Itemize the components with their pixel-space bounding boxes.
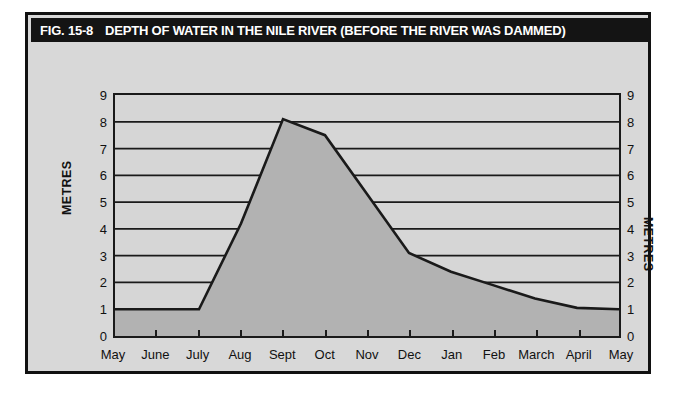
y-axis-tick-label: 2	[627, 275, 649, 290]
y-axis-tick-label: 5	[85, 195, 107, 210]
x-axis-tick-mark	[579, 330, 581, 338]
y-axis-tick-label: 4	[85, 221, 107, 236]
area-fill-path	[115, 119, 619, 336]
y-axis-ticks-left: 0123456789	[85, 93, 107, 338]
x-axis-tick-labels: MayJuneJulyAugSeptOctNovDecJanFebMarchAp…	[113, 347, 621, 367]
figure-title-label: DEPTH OF WATER IN THE NILE RIVER (BEFORE…	[105, 23, 565, 38]
x-axis-tick-mark	[494, 330, 496, 338]
y-axis-tick-label: 7	[627, 141, 649, 156]
area-chart-svg	[115, 95, 619, 336]
y-axis-tick-label: 0	[627, 329, 649, 344]
y-axis-tick-label: 8	[85, 114, 107, 129]
y-axis-tick-label: 6	[85, 168, 107, 183]
figure-panel: FIG. 15-8 DEPTH OF WATER IN THE NILE RIV…	[25, 12, 651, 374]
x-axis-tick-mark	[409, 330, 411, 338]
y-axis-tick-label: 9	[627, 88, 649, 103]
x-axis-tick-mark	[536, 330, 538, 338]
x-axis-tick-label: Oct	[315, 347, 335, 362]
x-axis-tick-mark	[367, 330, 369, 338]
x-axis-tick-label: Dec	[398, 347, 421, 362]
x-axis-tick-label: Jan	[441, 347, 462, 362]
y-axis-tick-label: 0	[85, 329, 107, 344]
x-axis-tick-label: July	[186, 347, 209, 362]
x-axis-tick-label: May	[101, 347, 126, 362]
x-axis-tick-mark	[198, 330, 200, 338]
y-axis-tick-label: 5	[627, 195, 649, 210]
y-axis-tick-label: 2	[85, 275, 107, 290]
x-axis-tick-marks	[113, 338, 621, 347]
y-axis-tick-label: 9	[85, 88, 107, 103]
x-axis-tick-label: June	[141, 347, 169, 362]
y-axis-ticks-right: 0123456789	[627, 93, 649, 338]
y-axis-tick-label: 6	[627, 168, 649, 183]
x-axis-tick-mark	[282, 330, 284, 338]
x-axis-tick-label: Aug	[228, 347, 251, 362]
y-axis-tick-label: 3	[627, 248, 649, 263]
x-axis-tick-mark	[240, 330, 242, 338]
x-axis-tick-label: Nov	[355, 347, 378, 362]
y-axis-tick-label: 3	[85, 248, 107, 263]
y-axis-tick-label: 1	[627, 302, 649, 317]
y-axis-tick-label: 8	[627, 114, 649, 129]
x-axis-tick-label: April	[566, 347, 592, 362]
x-axis-tick-label: Feb	[483, 347, 505, 362]
figure-number-label: FIG. 15-8	[40, 23, 93, 38]
x-axis-tick-mark	[155, 330, 157, 338]
x-axis-tick-label: May	[609, 347, 634, 362]
chart-area: METRES METRES 0123456789 0123456789 MayJ…	[28, 42, 648, 374]
figure-title-bar: FIG. 15-8 DEPTH OF WATER IN THE NILE RIV…	[31, 18, 651, 42]
y-axis-title-left: METRES	[60, 161, 74, 216]
x-axis-tick-label: March	[518, 347, 554, 362]
plot-region	[113, 93, 621, 338]
y-axis-tick-label: 1	[85, 302, 107, 317]
x-axis-tick-mark	[325, 330, 327, 338]
y-axis-tick-label: 7	[85, 141, 107, 156]
x-axis-tick-label: Sept	[269, 347, 296, 362]
x-axis-tick-mark	[452, 330, 454, 338]
y-axis-tick-label: 4	[627, 221, 649, 236]
